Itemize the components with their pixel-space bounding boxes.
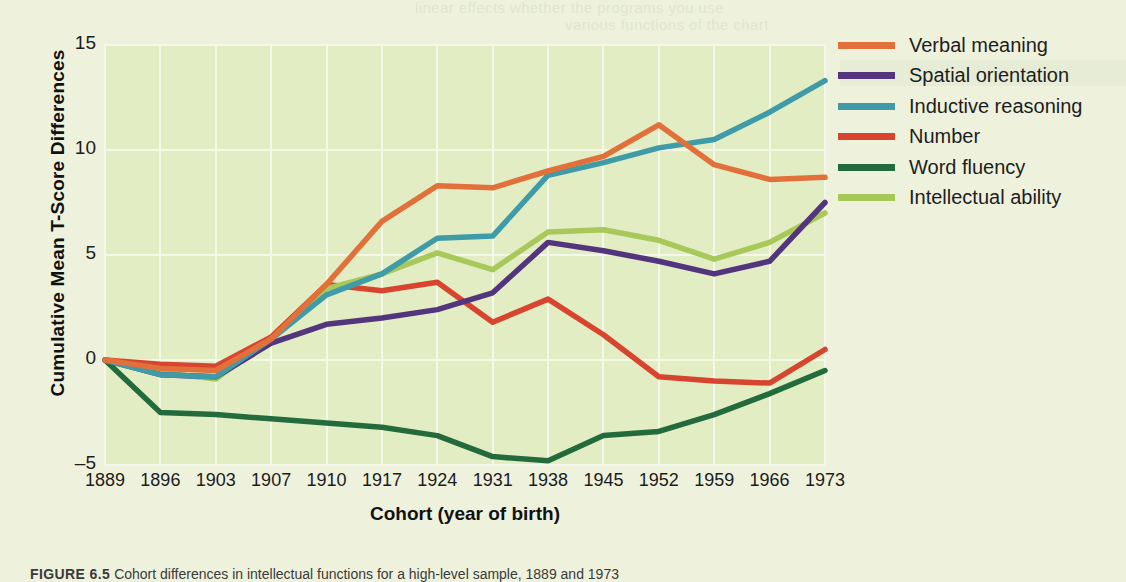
gridline-vertical <box>270 45 272 465</box>
gridline-horizontal <box>105 254 825 256</box>
legend-item: Spatial orientation <box>838 61 1082 92</box>
gridline-vertical <box>658 45 660 465</box>
gridline-vertical <box>436 45 438 465</box>
x-axis-tick-label: 1945 <box>573 470 633 491</box>
legend-item-label: Inductive reasoning <box>909 95 1082 118</box>
x-axis-tick-label: 1959 <box>684 470 744 491</box>
figure-caption-label: FIGURE 6.5 <box>30 566 110 582</box>
chart-legend: Verbal meaningSpatial orientationInducti… <box>838 30 1082 213</box>
legend-item-label: Intellectual ability <box>909 186 1061 209</box>
gridline-vertical <box>492 45 494 465</box>
x-axis-title: Cohort (year of birth) <box>105 503 825 525</box>
x-axis-tick-label: 1910 <box>297 470 357 491</box>
gridline-vertical <box>769 45 771 465</box>
legend-item-label: Verbal meaning <box>909 34 1048 57</box>
x-axis-tick-label: 1903 <box>186 470 246 491</box>
y-axis-title: Cumulative Mean T-Score Differences <box>47 13 69 433</box>
legend-color-swatch <box>838 103 895 110</box>
gridline-vertical <box>159 45 161 465</box>
gridline-vertical <box>326 45 328 465</box>
page-bleed-text-1: linear effects whether the programs you … <box>415 0 724 16</box>
legend-item: Verbal meaning <box>838 30 1082 61</box>
gridline-horizontal <box>105 464 825 466</box>
legend-color-swatch <box>838 133 895 140</box>
x-axis-tick-label: 1917 <box>352 470 412 491</box>
legend-color-swatch <box>838 194 895 201</box>
legend-color-swatch <box>838 164 895 171</box>
legend-item: Number <box>838 122 1082 153</box>
gridline-vertical <box>104 45 106 465</box>
x-axis-tick-label: 1952 <box>629 470 689 491</box>
gridline-vertical <box>602 45 604 465</box>
legend-color-swatch <box>838 42 895 49</box>
x-axis-tick-label: 1907 <box>241 470 301 491</box>
legend-item: Word fluency <box>838 152 1082 183</box>
legend-item: Intellectual ability <box>838 183 1082 214</box>
figure-caption-text: Cohort differences in intellectual funct… <box>114 566 619 582</box>
legend-item-label: Number <box>909 125 980 148</box>
gridline-vertical <box>824 45 826 465</box>
x-axis-tick-label: 1966 <box>740 470 800 491</box>
x-axis-tick-label: 1931 <box>463 470 523 491</box>
gridline-vertical <box>713 45 715 465</box>
gridline-horizontal <box>105 149 825 151</box>
x-axis-tick-label: 1889 <box>75 470 135 491</box>
gridline-vertical <box>381 45 383 465</box>
x-axis-tick-label: 1973 <box>795 470 855 491</box>
figure-caption: FIGURE 6.5 Cohort differences in intelle… <box>30 566 1100 582</box>
gridline-horizontal <box>105 44 825 46</box>
x-axis-tick-label: 1938 <box>518 470 578 491</box>
gridline-vertical <box>547 45 549 465</box>
x-axis-tick-label: 1896 <box>130 470 190 491</box>
legend-color-swatch <box>838 72 895 79</box>
legend-item: Inductive reasoning <box>838 91 1082 122</box>
legend-item-label: Spatial orientation <box>909 64 1069 87</box>
x-axis-tick-label: 1924 <box>407 470 467 491</box>
gridline-horizontal <box>105 359 825 361</box>
legend-item-label: Word fluency <box>909 156 1025 179</box>
gridline-vertical <box>215 45 217 465</box>
page-bleed-text-2: various functions of the chart <box>565 16 769 33</box>
